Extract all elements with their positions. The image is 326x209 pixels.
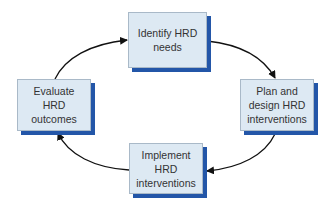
node-label-line: Evaluate (31, 84, 77, 98)
arrow-implement-to-evaluate (58, 133, 129, 170)
arrow-identify-to-plan (207, 41, 275, 78)
node-identify-hrd-needs: Identify HRD needs (128, 12, 207, 68)
node-label-line: HRD (31, 98, 77, 112)
node-label-line: Identify HRD (138, 26, 198, 40)
node-label-line: outcomes (31, 112, 77, 126)
node-plan-design-interventions: Plan and design HRD interventions (240, 79, 314, 131)
node-label-line: HRD (136, 162, 196, 176)
node-label-line: design HRD (247, 98, 307, 112)
arrow-evaluate-to-identify (55, 40, 127, 79)
node-label-line: Implement (136, 148, 196, 162)
node-label-line: interventions (247, 112, 307, 126)
node-evaluate-hrd-outcomes: Evaluate HRD outcomes (17, 79, 91, 131)
arrow-plan-to-implement (207, 134, 275, 171)
node-label-line: Plan and (247, 84, 307, 98)
node-label-line: needs (138, 40, 198, 54)
node-label-line: interventions (136, 176, 196, 190)
node-implement-interventions: Implement HRD interventions (129, 143, 203, 194)
